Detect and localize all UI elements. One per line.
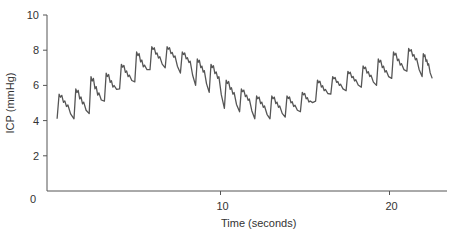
y-tick-label: 8 [33, 44, 39, 56]
y-axis: 0246810 [27, 9, 47, 205]
icp-waveform-line [57, 47, 432, 119]
x-ticks: 1020 [217, 191, 398, 212]
y-tick-label: 0 [30, 193, 36, 205]
y-axis-label: ICP (mmHg) [4, 73, 16, 134]
x-axis: 1020 [47, 191, 447, 212]
y-tick-label: 10 [27, 9, 39, 21]
y-tick-label: 2 [33, 150, 39, 162]
y-tick-label: 6 [33, 79, 39, 91]
icp-chart: 0246810 1020 ICP (mmHg) Time (seconds) [0, 0, 456, 236]
x-tick-label: 20 [386, 200, 398, 212]
x-axis-label: Time (seconds) [221, 217, 296, 229]
y-ticks: 0246810 [27, 9, 47, 205]
x-tick-label: 10 [217, 200, 229, 212]
y-tick-label: 4 [33, 115, 39, 127]
